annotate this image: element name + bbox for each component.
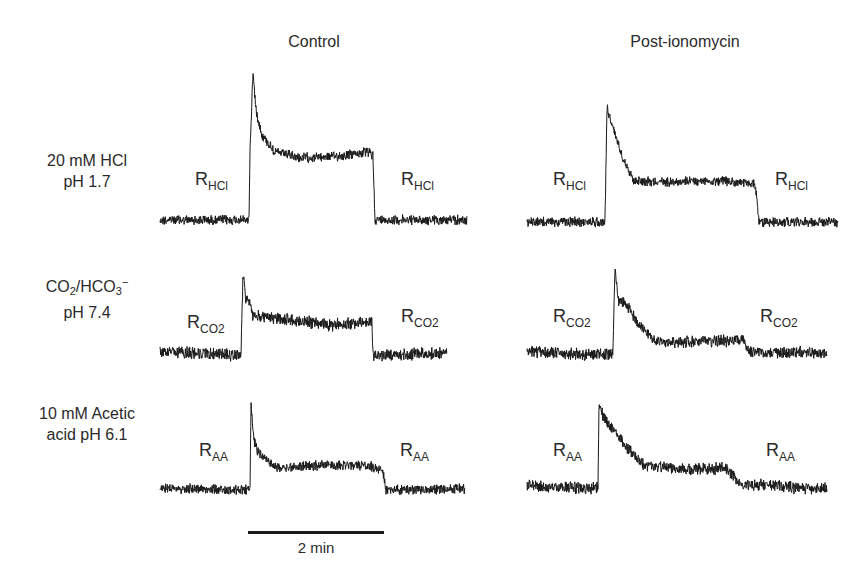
trace-AA-control bbox=[160, 403, 465, 495]
trace-AA-post bbox=[527, 405, 827, 495]
trace-plot-area bbox=[0, 0, 857, 577]
trace-HCl-post bbox=[527, 105, 838, 227]
trace-CO2-post bbox=[527, 269, 827, 361]
trace-CO2-control bbox=[160, 277, 447, 362]
scale-bar-label: 2 min bbox=[298, 539, 335, 556]
trace-HCl-control bbox=[160, 74, 467, 226]
scale-bar bbox=[248, 531, 384, 534]
